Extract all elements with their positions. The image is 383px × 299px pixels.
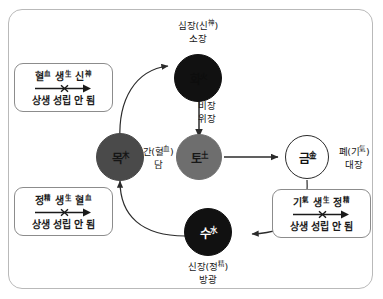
note-0-relation: 혈血 생生 신神 [20, 68, 107, 83]
organ-label-wood-line2: 담 [136, 158, 180, 171]
node-water[interactable]: 수水 [184, 208, 232, 256]
blocked-arrow-icon [291, 209, 353, 220]
node-water-label: 수水 [200, 224, 217, 241]
organ-label-water-line2: 방광 [158, 273, 258, 286]
note-qi-generates-essence: 기氣 생生 정精 상생 성립 안 됨 [272, 189, 371, 238]
note-1-relation: 정精 생生 혈血 [20, 192, 107, 207]
organ-label-earth-line1: 비장 [198, 99, 256, 112]
organ-label-wood: 간(혈血) 담 [136, 143, 180, 171]
organ-label-metal-line2: 대장 [330, 158, 378, 171]
five-elements-diagram: 화火 목木 토土 금金 수水 심장(신神) 소장 비장 위장 간(혈血) 담 폐… [0, 0, 383, 299]
organ-label-water-line1: 신장(정精) [158, 258, 258, 273]
node-earth-label: 토土 [191, 149, 208, 166]
node-metal-label: 금金 [299, 149, 316, 166]
organ-label-wood-line1: 간(혈血) [136, 143, 180, 158]
node-earth[interactable]: 토土 [176, 134, 222, 180]
organ-label-metal: 폐(기氣) 대장 [330, 143, 378, 171]
note-blood-generates-spirit: 혈血 생生 신神 상생 성립 안 됨 [14, 63, 113, 112]
note-2-conclusion: 상생 성립 안 됨 [278, 220, 365, 233]
organ-label-metal-line1: 폐(기氣) [330, 143, 378, 158]
note-essence-generates-blood: 정精 생生 혈血 상생 성립 안 됨 [14, 187, 113, 236]
node-wood-label: 목木 [112, 149, 129, 166]
organ-label-fire-line1: 심장(신神) [148, 17, 248, 32]
node-fire-label: 화火 [190, 70, 207, 87]
organ-label-earth: 비장 위장 [198, 99, 256, 125]
blocked-arrow-icon [33, 207, 95, 218]
organ-label-water: 신장(정精) 방광 [158, 258, 258, 286]
blocked-arrow-icon [33, 83, 95, 94]
note-0-conclusion: 상생 성립 안 됨 [20, 94, 107, 107]
organ-label-fire: 심장(신神) 소장 [148, 17, 248, 45]
node-fire[interactable]: 화火 [174, 54, 222, 102]
node-metal[interactable]: 금金 [285, 135, 329, 179]
organ-label-earth-line2: 위장 [198, 112, 256, 125]
note-2-relation: 기氣 생生 정精 [278, 194, 365, 209]
organ-label-fire-line2: 소장 [148, 32, 248, 45]
note-1-conclusion: 상생 성립 안 됨 [20, 218, 107, 231]
